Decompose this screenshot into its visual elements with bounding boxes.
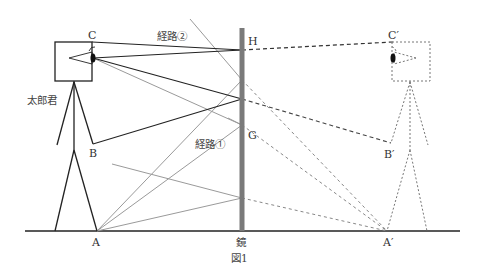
label-mirror: 鏡 bbox=[236, 237, 246, 248]
label-path-2: 経路② bbox=[157, 31, 187, 42]
label-path-1: 経路① bbox=[195, 139, 225, 150]
dark-rays bbox=[92, 42, 242, 144]
label-person: 太郎君 bbox=[27, 95, 57, 106]
label-A-prime: A′ bbox=[383, 237, 393, 248]
label-A: A bbox=[92, 237, 100, 248]
label-B: B bbox=[89, 148, 97, 159]
reflected-figure bbox=[387, 42, 430, 231]
figure-caption: 図1 bbox=[231, 253, 248, 264]
eye-icon bbox=[91, 54, 96, 63]
label-H: H bbox=[248, 36, 258, 47]
label-C-prime: C′ bbox=[388, 30, 399, 41]
label-G: G bbox=[248, 130, 257, 141]
reflected-eye-icon bbox=[391, 54, 396, 63]
reflected-rays bbox=[242, 42, 393, 231]
label-B-prime: B′ bbox=[384, 149, 395, 160]
mirror bbox=[240, 28, 245, 231]
label-C: C bbox=[88, 30, 96, 41]
taro-figure bbox=[55, 42, 97, 231]
